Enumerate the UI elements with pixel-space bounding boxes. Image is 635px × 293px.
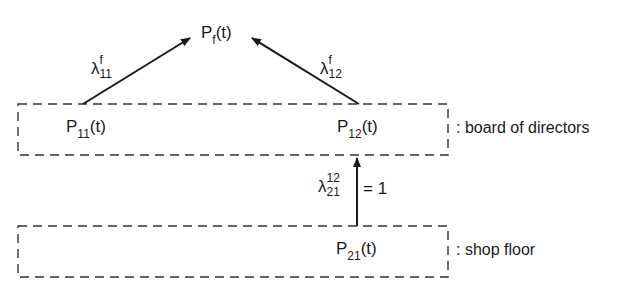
edge-sub: 21 <box>327 186 340 198</box>
node-p21-arg: (t) <box>361 239 377 258</box>
lambda-symbol: λ <box>91 59 100 78</box>
edge-label-lambda-11-f: λf11 <box>91 56 112 80</box>
node-p12-base: P <box>337 117 348 136</box>
node-pf-sub: f <box>212 33 215 47</box>
lambda-symbol: λ <box>318 177 327 196</box>
node-p11: P11(t) <box>66 118 106 135</box>
edge-sub: 12 <box>329 68 342 80</box>
node-p12-arg: (t) <box>362 117 378 136</box>
node-p11-base: P <box>66 117 77 136</box>
edge-sub: 11 <box>100 68 112 80</box>
edge-label-lambda-12-f: λf12 <box>320 56 342 80</box>
node-p12: P12(t) <box>337 118 378 135</box>
edge-sup: 12 <box>327 172 340 184</box>
node-pf-arg: (t) <box>216 23 232 42</box>
arrow-p12-to-pf <box>252 38 359 104</box>
node-pf-base: P <box>201 23 212 42</box>
node-p11-arg: (t) <box>90 117 106 136</box>
board-of-directors-caption: : board of directors <box>456 119 589 137</box>
node-p21: P21(t) <box>336 240 377 257</box>
node-pf: Pf(t) <box>201 24 232 41</box>
shop-floor-box <box>18 226 448 277</box>
node-p21-sub: 21 <box>347 249 360 263</box>
diagram-canvas <box>0 0 635 293</box>
shop-floor-caption: : shop floor <box>456 241 535 259</box>
node-p11-sub: 11 <box>77 127 89 141</box>
lambda-symbol: λ <box>320 59 329 78</box>
edge-sup: f <box>329 54 342 66</box>
edge-sup: f <box>100 54 112 66</box>
edge-value-equals-one: = 1 <box>363 180 387 197</box>
node-p12-sub: 12 <box>348 127 361 141</box>
edge-label-lambda-21-12: λ1221 <box>318 174 340 198</box>
node-p21-base: P <box>336 239 347 258</box>
